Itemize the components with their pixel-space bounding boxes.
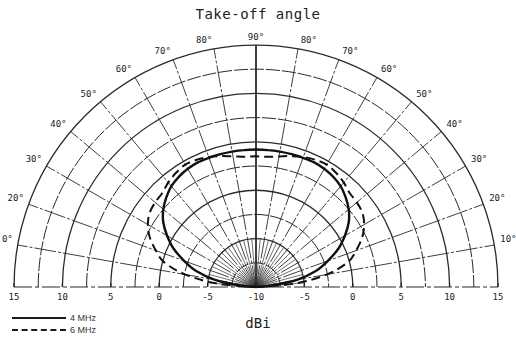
angle-label-left: 40° [50,119,66,129]
legend-item-4mhz: 4 MHz [12,312,96,324]
angle-label-left: 0° [2,234,13,244]
radial-tick-label: 10 [444,292,455,302]
angle-label-left: 80° [196,35,212,45]
angle-label-left: 50° [81,89,97,99]
angle-tick-labels: 10°20°30°40°50°60°70°80°0°20°30°40°50°60… [2,32,516,244]
grid-spoke [256,102,412,287]
radial-tick-label: 5 [108,292,113,302]
polar-chart: 10°20°30°40°50°60°70°80°0°20°30°40°50°60… [0,0,516,348]
angle-label-right: 80° [301,35,317,45]
solid-line-swatch-icon [12,317,66,319]
radial-tick-label: 5 [398,292,403,302]
radial-tick-label: 0 [350,292,355,302]
radial-tick-label: -10 [248,292,264,302]
angle-label-right: 60° [381,64,397,74]
legend: 4 MHz 6 MHz [12,312,96,336]
angle-label-right: 20° [489,193,505,203]
radial-tick-label: -5 [202,292,213,302]
angle-label-left: 60° [116,64,132,74]
axis-label-dbi: dBi [228,315,288,331]
angle-label-right: 30° [471,154,487,164]
chart-title: Take-off angle [0,6,516,22]
legend-label: 4 MHz [70,313,96,323]
angle-label-top: 90° [248,32,264,42]
angle-label-left: 20° [8,193,24,203]
grid-spoke [100,102,256,287]
radial-tick-label: 10 [57,292,68,302]
dashed-line-swatch-icon [12,329,66,331]
angle-label-right: 70° [342,46,358,56]
radial-tick-label: 15 [9,292,20,302]
radial-tick-label: 15 [493,292,504,302]
legend-item-6mhz: 6 MHz [12,324,96,336]
angle-grid-spokes [18,45,495,287]
radial-tick-labels: 151050-5-10-5051015 [9,292,504,302]
radial-tick-label: -5 [299,292,310,302]
legend-label: 6 MHz [70,325,96,335]
angle-label-left: 70° [155,46,171,56]
radial-tick-label: 0 [156,292,161,302]
angle-label-right: 40° [446,119,462,129]
angle-label-right: 50° [416,89,432,99]
angle-label-right: 10° [500,234,516,244]
angle-label-left: 30° [26,154,42,164]
